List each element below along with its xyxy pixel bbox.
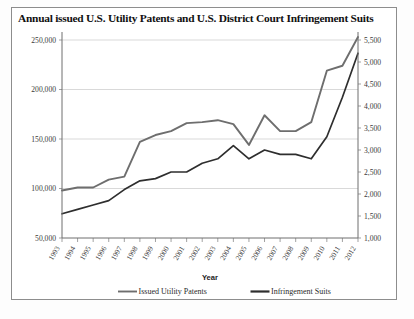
x-axis-tick-label: 2000 — [156, 244, 171, 262]
x-axis-tick-label: 2006 — [249, 244, 264, 262]
x-axis-tick-label: 1993 — [47, 244, 62, 262]
x-axis-tick-label: 2002 — [187, 244, 202, 262]
plot-area: 50,000100,000150,000200,000250,000 1,000… — [0, 0, 414, 319]
x-axis-ticks: 1993199419951996199719981999200020012002… — [47, 238, 358, 262]
right-axis-tick-label: 3,000 — [364, 146, 381, 155]
right-axis-tick-label: 3,500 — [364, 124, 381, 133]
right-axis-tick-label: 4,500 — [364, 80, 381, 89]
legend-label: Issued Utility Patents — [139, 287, 207, 296]
chart-svg: 50,000100,000150,000200,000250,000 1,000… — [0, 0, 414, 319]
right-axis-tick-label: 5,500 — [364, 36, 381, 45]
series-line — [62, 53, 358, 214]
x-axis-tick-label: 2010 — [311, 244, 326, 262]
x-axis-tick-label: 1999 — [140, 244, 155, 262]
x-axis-tick-label: 1997 — [109, 244, 124, 262]
x-axis-tick-label: 2009 — [296, 244, 311, 262]
x-axis-tick-label: 2011 — [327, 244, 342, 261]
series-lines — [62, 37, 358, 214]
x-axis-title-label: Year — [202, 273, 218, 282]
x-axis-tick-label: 1995 — [78, 244, 93, 262]
left-axis-tick-label: 100,000 — [31, 184, 56, 193]
x-axis-tick-label: 2004 — [218, 244, 233, 262]
left-axis-ticks: 50,000100,000150,000200,000250,000 — [31, 36, 62, 243]
right-axis-ticks: 1,0001,5002,0002,5003,0003,5004,0004,500… — [358, 36, 381, 243]
axis-frame — [62, 32, 358, 238]
left-axis-tick-label: 250,000 — [31, 36, 56, 45]
left-axis-tick-label: 50,000 — [35, 234, 56, 243]
right-axis-tick-label: 4,000 — [364, 102, 381, 111]
chart-figure: Annual issued U.S. Utility Patents and U… — [0, 0, 414, 319]
x-axis-title: Year — [202, 273, 218, 282]
x-axis-tick-label: 2005 — [233, 244, 248, 262]
left-axis-tick-label: 200,000 — [31, 85, 56, 94]
right-axis-tick-label: 1,000 — [364, 234, 381, 243]
x-axis-tick-label: 1996 — [93, 244, 108, 262]
x-axis-tick-label: 2003 — [202, 244, 217, 262]
right-axis-tick-label: 5,000 — [364, 58, 381, 67]
x-axis-tick-label: 2012 — [343, 244, 358, 262]
x-axis-tick-label: 2008 — [280, 244, 295, 262]
left-axis-tick-label: 150,000 — [31, 135, 56, 144]
right-axis-tick-label: 2,000 — [364, 190, 381, 199]
series-line — [62, 37, 358, 190]
x-axis-tick-label: 2007 — [265, 244, 280, 262]
legend-label: Infringement Suits — [271, 287, 331, 296]
x-axis-tick-label: 1994 — [62, 244, 77, 262]
chart-legend: Issued Utility PatentsInfringement Suits — [118, 287, 331, 296]
right-axis-tick-label: 1,500 — [364, 212, 381, 221]
x-axis-tick-label: 2001 — [171, 244, 186, 262]
right-axis-tick-label: 2,500 — [364, 168, 381, 177]
x-axis-tick-label: 1998 — [124, 244, 139, 262]
